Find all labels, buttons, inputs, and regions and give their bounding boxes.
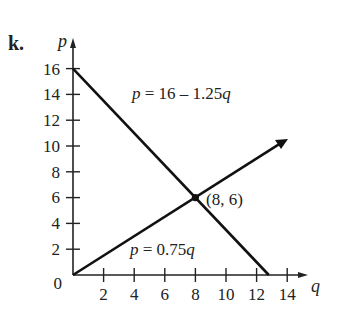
y-tick-label: 4 (52, 214, 61, 233)
y-axis-label: p (56, 31, 67, 51)
x-axis-label: q (311, 276, 320, 296)
x-tick-label: 6 (161, 285, 170, 304)
x-tick-labels: 2 4 6 8 10 12 14 (99, 285, 296, 304)
x-tick-label: 14 (279, 285, 297, 304)
x-tick-label: 8 (191, 285, 200, 304)
x-tick-label: 10 (218, 285, 235, 304)
demand-eq-p: p (131, 84, 141, 103)
intersection-point (192, 194, 199, 201)
supply-eq-p: p (129, 240, 139, 259)
y-tick-label: 6 (52, 188, 61, 207)
demand-eq-q: q (222, 84, 231, 103)
y-axis-arrow-icon (70, 38, 76, 48)
y-tick-label: 2 (52, 240, 61, 259)
y-tick-label: 8 (52, 163, 61, 182)
part-label: k. (8, 32, 24, 54)
y-tick-label: 12 (43, 111, 60, 130)
origin-label: 0 (54, 274, 63, 293)
supply-equation: p = 0.75q (129, 240, 195, 259)
x-tick-label: 12 (248, 285, 265, 304)
y-tick-label: 14 (43, 85, 61, 104)
y-tick-labels: 2 4 6 8 10 12 14 16 (43, 60, 61, 259)
x-tick-label: 4 (130, 285, 139, 304)
supply-eq-rest: = 0.75 (139, 240, 187, 259)
x-axis-arrow-icon (298, 272, 308, 278)
intersection-label: (8, 6) (206, 190, 243, 209)
demand-eq-rest: = 16 – 1.25 (141, 84, 223, 103)
demand-equation: p = 16 – 1.25q (131, 84, 231, 103)
x-tick-label: 2 (99, 285, 108, 304)
y-tick-label: 10 (43, 137, 60, 156)
y-tick-label: 16 (43, 60, 60, 79)
chart: k. p q 2 4 6 8 10 12 14 16 0 (0, 0, 343, 327)
supply-eq-q: q (186, 240, 195, 259)
